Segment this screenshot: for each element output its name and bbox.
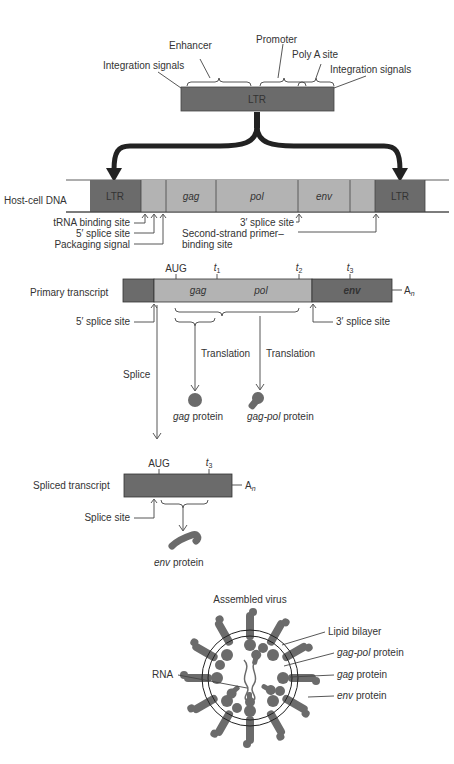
pol-label: pol	[249, 191, 264, 202]
splice-site-label: Splice site	[84, 512, 130, 523]
second-strand-label-2: binding site	[182, 239, 233, 250]
splice-label: Splice	[123, 369, 151, 380]
spliced-transcript-label: Spliced transcript	[33, 480, 110, 491]
translation-left-label: Translation	[201, 348, 250, 359]
env-label: env	[343, 285, 362, 296]
env-protein-label: env protein	[337, 690, 386, 701]
virion	[180, 608, 320, 748]
promoter-label: Promoter	[256, 34, 298, 45]
env-protein-label: env protein	[154, 557, 203, 568]
splice3-label: 3′ splice site	[240, 217, 295, 228]
primary-transcript-label: Primary transcript	[30, 287, 109, 298]
gagpol-brace	[175, 308, 299, 316]
rna-strand-2	[252, 660, 256, 700]
env-spikes	[180, 608, 320, 748]
aug-marker: AUG	[165, 263, 187, 274]
gag-brace	[175, 318, 215, 326]
env-brace	[161, 500, 208, 508]
polya-brace	[298, 78, 334, 86]
t3-marker: t3	[206, 457, 213, 469]
splice5-label: 5′ splice site	[76, 228, 131, 239]
ltr-left-label: LTR	[106, 191, 124, 202]
primary-transcript: Primary transcript An gag pol env AUG t1…	[30, 262, 415, 439]
gag-label: gag	[190, 285, 207, 296]
trailer-segment	[350, 180, 375, 212]
t3-marker: t3	[347, 262, 354, 274]
lipid-bilayer-label: Lipid bilayer	[328, 626, 382, 637]
gag-protein-label: gag protein	[337, 669, 387, 680]
integration-arrow	[106, 112, 408, 182]
translation-right-label: Translation	[266, 348, 315, 359]
rna-label: RNA	[152, 669, 173, 680]
ltr-detail: LTR Integration signals Enhancer Promote…	[103, 34, 411, 111]
poly-a-site-label: Poly A site	[292, 49, 339, 60]
virus-title: Assembled virus	[213, 594, 286, 605]
gagpol-protein-label: gag-pol protein	[247, 411, 314, 422]
gag-protein-label: gag protein	[173, 411, 223, 422]
promoter-brace	[260, 78, 306, 86]
aug-marker: AUG	[148, 458, 170, 469]
gagpol-protein-shape	[245, 390, 266, 412]
splice3-label: 3′ splice site	[336, 316, 391, 327]
enhancer-brace	[187, 78, 251, 86]
host-cell-dna: Host-cell DNA LTR gag pol env LTR tRN	[4, 180, 449, 250]
env-label: env	[316, 191, 333, 202]
trna-binding-site-label: tRNA binding site	[53, 217, 130, 228]
second-strand-label-1: Second-strand primer–	[182, 228, 284, 239]
pol-label: pol	[253, 285, 268, 296]
t2-marker: t2	[296, 262, 303, 274]
env-protein-shape	[172, 535, 198, 546]
polya-tail: An	[245, 480, 256, 492]
ltr-right-label: LTR	[391, 191, 409, 202]
polya-tail: An	[404, 285, 415, 297]
spliced-transcript: Spliced transcript An AUG t3 Splice site…	[33, 457, 256, 568]
ltr-box-label: LTR	[248, 94, 266, 105]
enhancer-label: Enhancer	[169, 40, 212, 51]
integration-signals-left-label: Integration signals	[103, 60, 184, 71]
splice5-label: 5′ splice site	[76, 316, 131, 327]
leader-segment	[141, 180, 166, 212]
gag-label: gag	[183, 191, 200, 202]
packaging-signal-label: Packaging signal	[54, 239, 130, 250]
assembled-virus: Assembled virus	[152, 594, 404, 748]
host-dna-label: Host-cell DNA	[4, 195, 67, 206]
retrovirus-diagram: LTR Integration signals Enhancer Promote…	[0, 0, 454, 764]
gag-protein-shape	[188, 393, 202, 407]
gagpol-protein-label: gag-pol protein	[337, 647, 404, 658]
integration-signals-right-label: Integration signals	[330, 64, 411, 75]
t1-marker: t1	[214, 262, 221, 274]
